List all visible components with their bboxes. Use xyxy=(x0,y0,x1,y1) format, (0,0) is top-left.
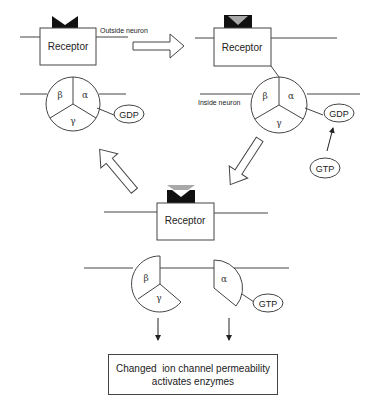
gtp-to-gdp-arrow-icon xyxy=(327,128,333,151)
right-arrow-icon xyxy=(133,34,184,58)
stage1-gprotein: β α γ GDP xyxy=(20,77,144,131)
beta-subunit: β xyxy=(262,91,267,101)
gtp-label: GTP xyxy=(316,164,335,174)
inside-neuron-label: Inside neuron xyxy=(198,99,241,106)
stage1-receptor: Receptor xyxy=(20,16,128,65)
receptor-label: Receptor xyxy=(222,42,263,53)
stage2-gprotein: β α γ GDP GTP xyxy=(200,77,360,178)
receptor-label: Receptor xyxy=(48,41,89,52)
alpha-subunit-free xyxy=(214,260,243,306)
alpha-subunit: α xyxy=(221,274,227,284)
receptor-label: Receptor xyxy=(165,215,206,226)
gdp-label: GDP xyxy=(119,110,139,120)
effect-line-2: activates enzymes xyxy=(152,375,234,388)
alpha-subunit: α xyxy=(82,90,88,100)
effect-line-1: Changed ion channel permeability xyxy=(116,362,270,375)
gdp-label: GDP xyxy=(329,109,349,119)
beta-subunit: β xyxy=(57,90,62,100)
stage2-receptor: Receptor xyxy=(195,15,337,77)
alpha-subunit: α xyxy=(288,91,294,101)
beta-subunit: β xyxy=(143,273,148,283)
beta-gamma-subunit xyxy=(132,256,181,312)
binding-site-icon xyxy=(52,16,78,28)
gamma-subunit: γ xyxy=(70,116,75,126)
gamma-subunit: γ xyxy=(276,118,281,128)
gamma-subunit: γ xyxy=(156,293,161,303)
effect-box: Changed ion channel permeability activat… xyxy=(108,354,278,395)
stage3-receptor: Receptor xyxy=(104,185,268,240)
down-left-arrow-icon xyxy=(221,133,269,190)
gtp-label: GTP xyxy=(259,299,278,309)
up-left-arrow-icon xyxy=(91,142,143,198)
outside-neuron-label: Outside neuron xyxy=(100,27,148,34)
stage4-dissociated: β γ α GTP xyxy=(84,256,289,340)
